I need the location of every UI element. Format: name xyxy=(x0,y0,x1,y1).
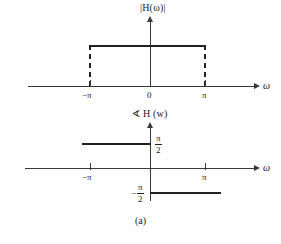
phase-x-axis-arrow-icon xyxy=(254,165,260,171)
figure-container: |H(ω)| ω −π 0 π ∢ H (w) ω xyxy=(0,0,281,244)
figure-caption: (a) xyxy=(0,215,281,226)
magnitude-x-axis-arrow-icon xyxy=(254,83,260,89)
phase-ticklabel-neg-pi: −π xyxy=(82,172,92,182)
magnitude-pulse-top xyxy=(89,45,206,47)
phase-x-axis-label: ω xyxy=(263,162,270,173)
phase-value-positive-numerator: π xyxy=(155,134,162,143)
phase-level-positive xyxy=(82,143,151,145)
magnitude-y-axis-arrow-icon xyxy=(147,16,153,22)
phase-tick-pi xyxy=(205,163,206,170)
phase-y-axis-arrow-icon xyxy=(147,122,153,128)
magnitude-tick-neg-pi xyxy=(90,80,91,87)
magnitude-tick-pi xyxy=(205,80,206,87)
magnitude-ticklabel-zero: 0 xyxy=(147,90,152,100)
magnitude-ticklabel-neg-pi: −π xyxy=(82,90,92,100)
magnitude-tick-zero xyxy=(150,80,151,87)
phase-level-negative xyxy=(150,192,221,194)
phase-value-label-negative: − π 2 xyxy=(131,183,144,204)
magnitude-y-axis xyxy=(150,22,151,86)
phase-value-label-positive: π 2 xyxy=(155,134,162,155)
phase-y-axis xyxy=(150,128,151,201)
phase-x-axis xyxy=(25,168,255,169)
phase-tick-neg-pi xyxy=(90,163,91,170)
magnitude-x-axis xyxy=(28,86,255,87)
phase-value-negative-numerator: π xyxy=(137,183,144,192)
phase-ticklabel-pi: π xyxy=(202,172,207,182)
magnitude-plot-title: |H(ω)| xyxy=(140,2,166,13)
phase-value-negative-sign: − xyxy=(131,189,136,198)
phase-value-negative-denominator: 2 xyxy=(137,195,144,204)
phase-plot-title: ∢ H (w) xyxy=(132,108,168,119)
phase-value-negative-fraction: π 2 xyxy=(137,183,144,204)
magnitude-x-axis-label: ω xyxy=(263,80,270,91)
magnitude-ticklabel-pi: π xyxy=(202,90,207,100)
phase-value-positive-denominator: 2 xyxy=(155,146,162,155)
